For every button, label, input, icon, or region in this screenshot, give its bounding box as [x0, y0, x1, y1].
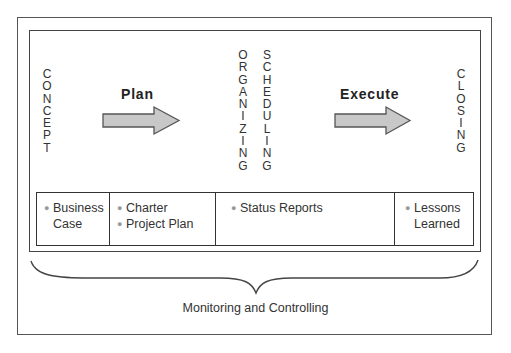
bullet-icon: ● — [405, 200, 414, 232]
letter: O — [42, 80, 51, 92]
item-line: Learned — [414, 217, 460, 231]
list-item: ● Lessons Learned — [405, 200, 473, 232]
letter: L — [458, 80, 465, 92]
bullet-icon: ● — [117, 200, 126, 216]
deliverables-table: ● Business Case ● Charter ● Project Plan… — [36, 192, 474, 246]
execute-arrow-icon — [334, 105, 414, 137]
letter: U — [263, 110, 272, 122]
item-line: Lessons — [414, 201, 461, 215]
deliverable-cell-concept: ● Business Case — [37, 193, 110, 245]
letter: G — [456, 142, 465, 154]
bracket-caption: Monitoring and Controlling — [0, 301, 511, 315]
letter: N — [239, 147, 248, 159]
item-text: Business Case — [53, 200, 104, 232]
plan-label: Plan — [121, 86, 154, 102]
plan-arrow-icon — [102, 105, 182, 137]
list-item: ● Project Plan — [117, 216, 215, 232]
letter: T — [43, 142, 50, 154]
item-text: Lessons Learned — [414, 200, 461, 232]
list-item: ● Charter — [117, 200, 215, 216]
letter: N — [457, 129, 466, 141]
item-line: Case — [53, 217, 82, 231]
item-line: Business — [53, 201, 104, 215]
item-text: Project Plan — [126, 216, 193, 232]
item-text: Charter — [126, 200, 168, 216]
bullet-icon: ● — [44, 200, 53, 232]
phase-organizing: ORGANIZING — [237, 49, 249, 172]
bullet-icon: ● — [231, 200, 240, 216]
deliverable-cell-closing: ● Lessons Learned — [395, 193, 473, 245]
letter: P — [43, 129, 51, 141]
list-item: ● Status Reports — [231, 200, 394, 216]
phase-closing: CLOSING — [455, 68, 467, 154]
execute-label: Execute — [340, 86, 399, 102]
item-text: Status Reports — [240, 200, 323, 216]
deliverable-cell-execute: ● Status Reports — [216, 193, 395, 245]
letter: R — [239, 61, 248, 73]
bullet-icon: ● — [117, 216, 126, 232]
letter: G — [262, 160, 271, 172]
deliverable-cell-plan: ● Charter ● Project Plan — [110, 193, 216, 245]
letter: G — [238, 160, 247, 172]
phase-scheduling: SCHEDULING — [261, 49, 273, 172]
letter: N — [263, 147, 272, 159]
letter: C — [263, 61, 272, 73]
letter: I — [241, 110, 244, 122]
list-item: ● Business Case — [44, 200, 109, 232]
brace-icon — [0, 255, 511, 300]
phase-concept: CONCEPT — [41, 68, 53, 154]
